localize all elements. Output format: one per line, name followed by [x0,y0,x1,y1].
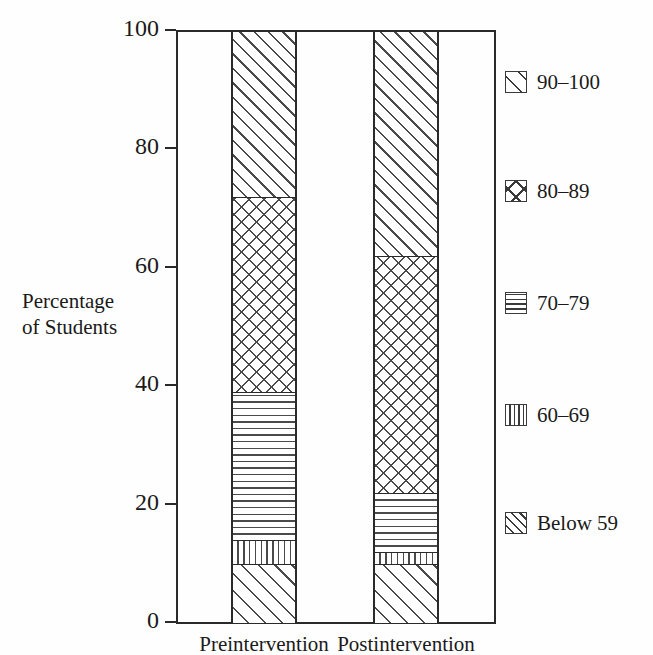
y-axis-tick: 100 [165,29,176,31]
plot-area: 020406080100 [176,31,496,623]
legend-item[interactable]: 80–89 [505,178,590,204]
y-axis-tick-label: 100 [123,16,159,40]
bar-segment [375,564,437,623]
legend-swatch-icon [505,180,527,202]
y-axis-tick: 0 [165,621,176,623]
legend-item-label: Below 59 [537,511,618,535]
legend-item-label: 90–100 [537,70,600,94]
y-axis-tick-label: 40 [135,371,159,395]
legend-item-label: 60–69 [537,403,590,427]
y-axis-title: Percentage of Students [22,288,162,340]
y-axis-tick: 20 [165,503,176,505]
bar-segment [375,31,437,256]
stacked-bar [231,31,297,623]
bar-segment [375,256,437,493]
y-axis-tick-label: 60 [135,253,159,277]
legend-swatch-icon [505,512,527,534]
y-axis-tick-label: 20 [135,490,159,514]
y-axis-tick-label: 80 [135,134,159,158]
legend-item[interactable]: 90–100 [505,69,600,95]
bar-segment [375,493,437,552]
bar-segment [375,552,437,564]
y-axis-title-line-2: of Students [22,314,162,340]
clipped-title-remnant [150,0,570,5]
plot-right-border [494,30,496,624]
stacked-bar [373,31,439,623]
x-axis-category-label: Postintervention [311,632,501,655]
chart-figure: Percentage of Students 020406080100 Prei… [0,0,653,655]
legend-swatch-icon [505,292,527,314]
bar-segment [233,197,295,392]
legend-item[interactable]: 60–69 [505,402,590,428]
legend-item-label: 80–89 [537,179,590,203]
x-axis-line [176,622,496,624]
bar-segment [233,564,295,623]
y-axis-tick-label: 0 [147,608,159,632]
bar-segment [233,540,295,564]
legend-item[interactable]: 70–79 [505,290,590,316]
y-axis-title-line-1: Percentage [22,288,162,314]
legend-item-label: 70–79 [537,291,590,315]
y-axis-tick: 80 [165,147,176,149]
plot-top-border [176,30,496,32]
y-axis-tick: 40 [165,384,176,386]
bar-segment [233,31,295,197]
y-axis-line [176,30,178,624]
legend-item[interactable]: Below 59 [505,510,618,536]
chart-legend: 90–10080–8970–7960–69Below 59 [505,31,653,623]
legend-swatch-icon [505,404,527,426]
y-axis-tick: 60 [165,266,176,268]
legend-swatch-icon [505,71,527,93]
bar-segment [233,392,295,540]
